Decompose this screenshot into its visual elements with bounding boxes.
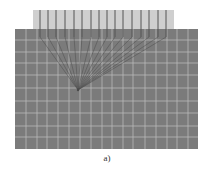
medium-rect bbox=[15, 29, 198, 149]
transducer-band-rect bbox=[33, 10, 174, 30]
propagation-medium-grid bbox=[15, 29, 198, 149]
transducer-array-band bbox=[33, 10, 174, 30]
focal-point-marker bbox=[77, 89, 79, 91]
transducer-focusing-diagram bbox=[0, 0, 214, 171]
figure-caption: a) bbox=[0, 153, 214, 163]
